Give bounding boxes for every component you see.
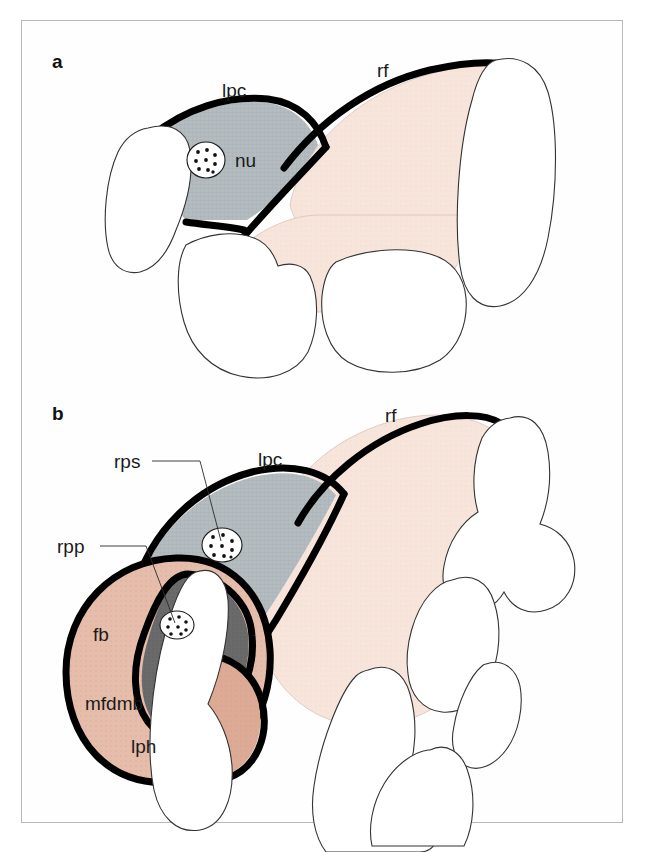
panel-a-marker-nu (187, 142, 225, 178)
panel-a-cartilage-left (105, 126, 191, 273)
panel-b: b (52, 403, 575, 852)
panel-b-label-mfdmb: mfdmb (85, 693, 143, 714)
panel-b-marker-rps (202, 528, 242, 562)
panel-a-cartilage-lower-middle (322, 250, 467, 372)
figure-canvas: a (0, 0, 648, 852)
panel-b-label-lph: lph (131, 736, 156, 757)
panel-a-letter: a (52, 51, 63, 72)
panel-b-label-fb: fb (93, 624, 109, 645)
panel-a: a (52, 51, 556, 378)
panel-b-label-rf: rf (385, 405, 397, 426)
panel-b-letter: b (52, 403, 64, 424)
panel-a-label-nu: nu (235, 150, 256, 171)
figure-root: a (0, 0, 648, 852)
panel-a-label-lpc: lpc (222, 80, 246, 101)
panel-b-label-lpc: lpc (258, 449, 282, 470)
panel-b-marker-rpp (160, 611, 194, 639)
panel-b-label-rps: rps (114, 451, 140, 472)
panel-a-label-rf: rf (377, 60, 389, 81)
panel-b-label-rpp: rpp (57, 536, 84, 557)
panel-a-lpc-inferior (186, 222, 244, 230)
